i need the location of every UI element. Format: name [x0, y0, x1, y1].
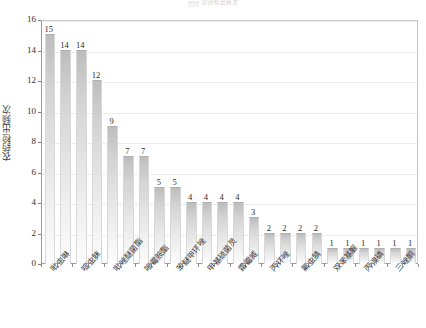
- y-tick-label: 16: [27, 14, 36, 25]
- bar-slot[interactable]: 9: [107, 20, 116, 264]
- y-tick-label: 12: [27, 75, 36, 86]
- bar[interactable]: [92, 80, 103, 264]
- bar-value-label: 2: [282, 224, 286, 233]
- bar-value-label: 7: [141, 147, 145, 156]
- bar-slot[interactable]: 3: [249, 20, 258, 264]
- bar[interactable]: [45, 34, 56, 264]
- legend-swatch-icon: [188, 1, 199, 7]
- bar-slot[interactable]: 1: [343, 20, 352, 264]
- y-tick: 12: [0, 81, 41, 82]
- bar-slot[interactable]: 2: [296, 20, 305, 264]
- bar-value-label: 2: [314, 224, 318, 233]
- bar[interactable]: [264, 233, 275, 265]
- bar-value-label: 2: [267, 224, 271, 233]
- bar-value-label: 1: [408, 239, 412, 248]
- bar[interactable]: [76, 50, 87, 265]
- bar-value-label: 1: [377, 239, 381, 248]
- bar-slot[interactable]: 7: [123, 20, 132, 264]
- bar-value-label: 9: [110, 117, 114, 126]
- bar[interactable]: [60, 50, 71, 265]
- bar-value-label: 12: [92, 71, 101, 80]
- bar-value-label: 4: [204, 193, 208, 202]
- bar[interactable]: [296, 233, 307, 265]
- bar-value-label: 14: [76, 41, 85, 50]
- bar-slot[interactable]: 12: [92, 20, 101, 264]
- bar-value-label: 7: [125, 147, 129, 156]
- bar-slot[interactable]: 4: [233, 20, 242, 264]
- x-tick-mark: [418, 264, 419, 267]
- bar-slot[interactable]: 2: [280, 20, 289, 264]
- bar[interactable]: [233, 202, 244, 264]
- bar-slot[interactable]: 2: [312, 20, 321, 264]
- y-tick: 16: [0, 20, 41, 21]
- bar-value-label: 4: [188, 193, 192, 202]
- bar-value-label: 1: [329, 239, 333, 248]
- bar-slot[interactable]: 4: [217, 20, 226, 264]
- bar-slot[interactable]: 7: [139, 20, 148, 264]
- legend-label: 农药检出频次: [202, 0, 238, 5]
- bar-slot[interactable]: 4: [202, 20, 211, 264]
- y-tick: 4: [0, 203, 41, 204]
- y-tick-label: 8: [32, 136, 37, 147]
- y-tick-label: 10: [27, 106, 36, 117]
- y-tick-label: 4: [32, 197, 37, 208]
- bar[interactable]: [170, 187, 181, 264]
- y-tick: 2: [0, 234, 41, 235]
- y-axis-ticks: 0246810121416: [0, 20, 41, 264]
- bar-slot[interactable]: 14: [76, 20, 85, 264]
- bar-value-label: 5: [172, 178, 176, 187]
- bar-slot[interactable]: 5: [154, 20, 163, 264]
- y-tick: 14: [0, 51, 41, 52]
- y-tick-label: 14: [27, 45, 36, 56]
- y-tick-label: 0: [32, 258, 37, 269]
- bar-slot[interactable]: 15: [45, 20, 54, 264]
- bar-value-label: 4: [220, 193, 224, 202]
- y-tick-label: 2: [32, 228, 37, 239]
- bar-slot[interactable]: 2: [264, 20, 273, 264]
- y-tick: 0: [0, 264, 41, 265]
- bar-slot[interactable]: 14: [60, 20, 69, 264]
- bar[interactable]: [107, 126, 118, 264]
- bar[interactable]: [202, 202, 213, 264]
- bar-chart: 农药检出频次 农药检出频次 0246810121416 151414129775…: [0, 0, 426, 328]
- bar-slot[interactable]: 5: [170, 20, 179, 264]
- bar-value-label: 15: [45, 25, 54, 34]
- y-tick: 8: [0, 142, 41, 143]
- y-tick-label: 6: [32, 167, 37, 178]
- bar-value-label: 1: [361, 239, 365, 248]
- bar-value-label: 4: [235, 193, 239, 202]
- bar-slot[interactable]: 1: [359, 20, 368, 264]
- bars-layer: 1514141297755444432222111111: [41, 20, 418, 264]
- chart-legend: 农药检出频次: [0, 0, 426, 10]
- bar-value-label: 5: [157, 178, 161, 187]
- bar-value-label: 14: [60, 41, 69, 50]
- bar-value-label: 3: [251, 208, 255, 217]
- bar-value-label: 1: [392, 239, 396, 248]
- x-axis-labels: 吡虫啉啶虫脒吡唑醚菌酯嘧霉胺酯苯醚甲环唑甲基硫菌灵霜霉威丙环唑氟虫腈双苯基脲丙溴…: [41, 266, 418, 328]
- bar-slot[interactable]: 1: [390, 20, 399, 264]
- bar-value-label: 2: [298, 224, 302, 233]
- bar-slot[interactable]: 1: [327, 20, 336, 264]
- bar-slot[interactable]: 1: [374, 20, 383, 264]
- y-tick: 10: [0, 112, 41, 113]
- bar-slot[interactable]: 1: [406, 20, 415, 264]
- y-tick: 6: [0, 173, 41, 174]
- bar-slot[interactable]: 4: [186, 20, 195, 264]
